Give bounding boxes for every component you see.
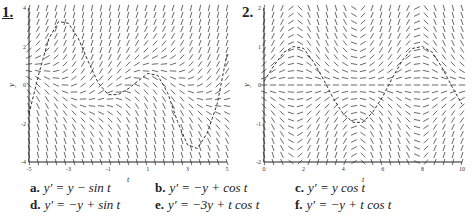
svg-text:10: 10: [459, 166, 465, 172]
svg-text:-5: -5: [27, 166, 32, 172]
svg-text:3: 3: [186, 166, 189, 172]
equation-d: d.y′ = −y + sin t: [30, 197, 120, 213]
svg-text:5: 5: [226, 166, 229, 172]
slope-field-plot-1: -5-3-1135-4-2024ty: [0, 0, 240, 190]
svg-text:4: 4: [23, 5, 26, 11]
svg-text:-4: -4: [21, 159, 26, 165]
plot-2-label: 2.: [242, 4, 253, 21]
svg-text:0: 0: [263, 166, 266, 172]
svg-text:1: 1: [146, 166, 149, 172]
svg-text:1: 1: [258, 44, 261, 50]
svg-text:t: t: [127, 175, 130, 184]
plot-1-label: 1.: [2, 4, 13, 21]
svg-text:6: 6: [381, 166, 384, 172]
svg-text:-1: -1: [256, 121, 261, 127]
svg-text:-2: -2: [21, 121, 26, 127]
svg-text:0: 0: [23, 82, 26, 88]
slope-field-plot-2: 0246810-2-1012ty: [234, 0, 474, 190]
svg-text:y: y: [242, 83, 251, 88]
svg-text:2: 2: [23, 44, 26, 50]
svg-text:2: 2: [302, 166, 305, 172]
svg-text:0: 0: [258, 82, 261, 88]
equation-a: a.y′ = y − sin t: [30, 180, 111, 196]
equation-f: f.y′ = −y + t cos t: [295, 197, 391, 213]
svg-text:-1: -1: [106, 166, 111, 172]
svg-text:2: 2: [258, 5, 261, 11]
svg-text:-3: -3: [66, 166, 71, 172]
svg-text:4: 4: [342, 166, 345, 172]
svg-text:y: y: [7, 83, 16, 88]
equation-b: b.y′ = −y + cos t: [155, 180, 247, 196]
svg-text:-2: -2: [256, 159, 261, 165]
equation-e: e.y′ = −3y + t cos t: [155, 197, 259, 213]
equation-c: c.y′ = y cos t: [295, 180, 365, 196]
svg-text:8: 8: [421, 166, 424, 172]
